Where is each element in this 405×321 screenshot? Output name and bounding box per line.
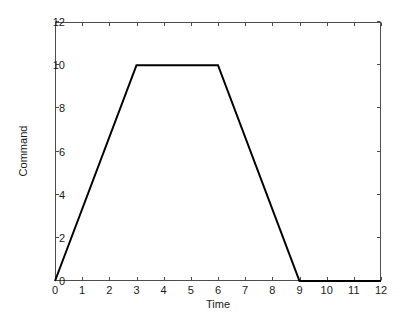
figure-canvas: 0123456789101112 024681012 Time Command xyxy=(0,0,405,321)
plot-area xyxy=(55,22,381,281)
chart-screenshot: 0123456789101112 024681012 Time Command xyxy=(0,0,405,321)
y-tick-label: 8 xyxy=(59,103,65,114)
y-tick-label: 12 xyxy=(53,17,65,28)
y-tick-label: 4 xyxy=(59,189,65,200)
x-tick-label: 1 xyxy=(79,285,85,296)
x-tick-label: 8 xyxy=(269,285,275,296)
x-tick-label: 6 xyxy=(215,285,221,296)
x-tick-label: 7 xyxy=(242,285,248,296)
x-tick-label: 5 xyxy=(188,285,194,296)
x-tick-label: 10 xyxy=(321,285,333,296)
x-tick-label: 4 xyxy=(161,285,167,296)
x-axis-title: Time xyxy=(55,298,381,310)
y-tick-label: 0 xyxy=(59,276,65,287)
x-tick-label: 2 xyxy=(106,285,112,296)
y-axis-title: Command xyxy=(15,22,31,281)
y-tick-label: 10 xyxy=(53,60,65,71)
x-tick-label: 12 xyxy=(375,285,387,296)
x-tick-label: 0 xyxy=(52,285,58,296)
x-tick-label: 3 xyxy=(133,285,139,296)
y-tick-label: 2 xyxy=(59,232,65,243)
x-tick-label: 11 xyxy=(348,285,359,296)
y-tick-label: 6 xyxy=(59,146,65,157)
x-tick-label: 9 xyxy=(296,285,302,296)
